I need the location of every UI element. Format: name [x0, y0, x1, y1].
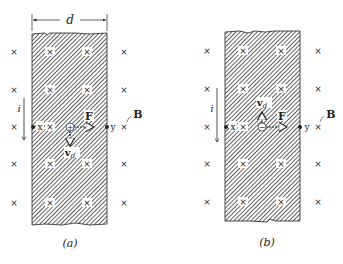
current-label-i: i: [210, 103, 213, 114]
panel-caption-a: (a): [62, 237, 77, 250]
svg-text:×: ×: [46, 159, 54, 169]
svg-text:×: ×: [120, 47, 128, 57]
svg-text:+: +: [67, 123, 74, 132]
svg-text:×: ×: [277, 159, 285, 169]
field-label-B: B: [320, 108, 336, 122]
width-dimension: d: [32, 13, 107, 31]
svg-text:×: ×: [10, 85, 18, 95]
svg-text:×: ×: [46, 198, 54, 208]
svg-text:×: ×: [120, 85, 128, 95]
force-label: F: [85, 110, 93, 123]
svg-text:×: ×: [277, 46, 285, 56]
svg-text:×: ×: [10, 47, 18, 57]
point-y: [105, 125, 109, 129]
point-x-label: x: [230, 122, 235, 132]
svg-text:×: ×: [239, 46, 247, 56]
current-arrow: i: [210, 88, 217, 142]
svg-text:×: ×: [83, 85, 91, 95]
svg-text:×: ×: [239, 84, 247, 94]
svg-text:×: ×: [314, 159, 322, 169]
svg-text:−: −: [259, 123, 266, 132]
svg-text:×: ×: [314, 84, 322, 94]
svg-text:B: B: [326, 108, 335, 121]
svg-text:×: ×: [120, 198, 128, 208]
hall-effect-diagram: d ×× ×× ×× ×× ×× × × × × × × × × × i: [0, 0, 343, 264]
panel-b: ×× ×× ×× ×× ×× × × × × × × × × × i x y: [203, 31, 335, 249]
svg-text:×: ×: [314, 197, 322, 207]
svg-text:×: ×: [120, 122, 128, 132]
svg-text:×: ×: [46, 47, 54, 57]
svg-text:×: ×: [239, 197, 247, 207]
svg-text:×: ×: [46, 122, 54, 132]
svg-text:×: ×: [83, 159, 91, 169]
point-y-label: y: [303, 122, 310, 132]
svg-text:×: ×: [239, 122, 247, 132]
charge-carrier-negative: −: [258, 123, 266, 132]
svg-text:×: ×: [277, 197, 285, 207]
svg-text:×: ×: [10, 159, 18, 169]
point-x: [224, 125, 228, 129]
svg-text:×: ×: [203, 197, 211, 207]
panel-a: d ×× ×× ×× ×× ×× × × × × × × × × × i: [10, 13, 142, 250]
svg-text:×: ×: [46, 85, 54, 95]
current-arrow: i: [17, 98, 24, 140]
field-label-B: B: [127, 108, 143, 122]
point-x: [31, 125, 35, 129]
panel-caption-b: (b): [259, 236, 275, 249]
force-label: F: [278, 110, 286, 123]
current-label-i: i: [17, 103, 20, 114]
svg-text:×: ×: [10, 198, 18, 208]
svg-text:×: ×: [314, 122, 322, 132]
svg-text:×: ×: [203, 46, 211, 56]
svg-text:×: ×: [83, 198, 91, 208]
svg-text:×: ×: [314, 46, 322, 56]
width-label-d: d: [66, 13, 74, 27]
svg-text:×: ×: [277, 84, 285, 94]
svg-text:×: ×: [10, 122, 18, 132]
svg-text:×: ×: [203, 159, 211, 169]
point-y: [298, 125, 302, 129]
svg-text:×: ×: [83, 47, 91, 57]
svg-text:×: ×: [120, 159, 128, 169]
charge-carrier-positive: +: [66, 123, 74, 132]
svg-text:×: ×: [203, 84, 211, 94]
svg-text:×: ×: [239, 159, 247, 169]
point-y-label: y: [109, 122, 116, 132]
point-x-label: x: [37, 122, 42, 132]
svg-text:×: ×: [203, 122, 211, 132]
svg-text:B: B: [133, 108, 142, 121]
